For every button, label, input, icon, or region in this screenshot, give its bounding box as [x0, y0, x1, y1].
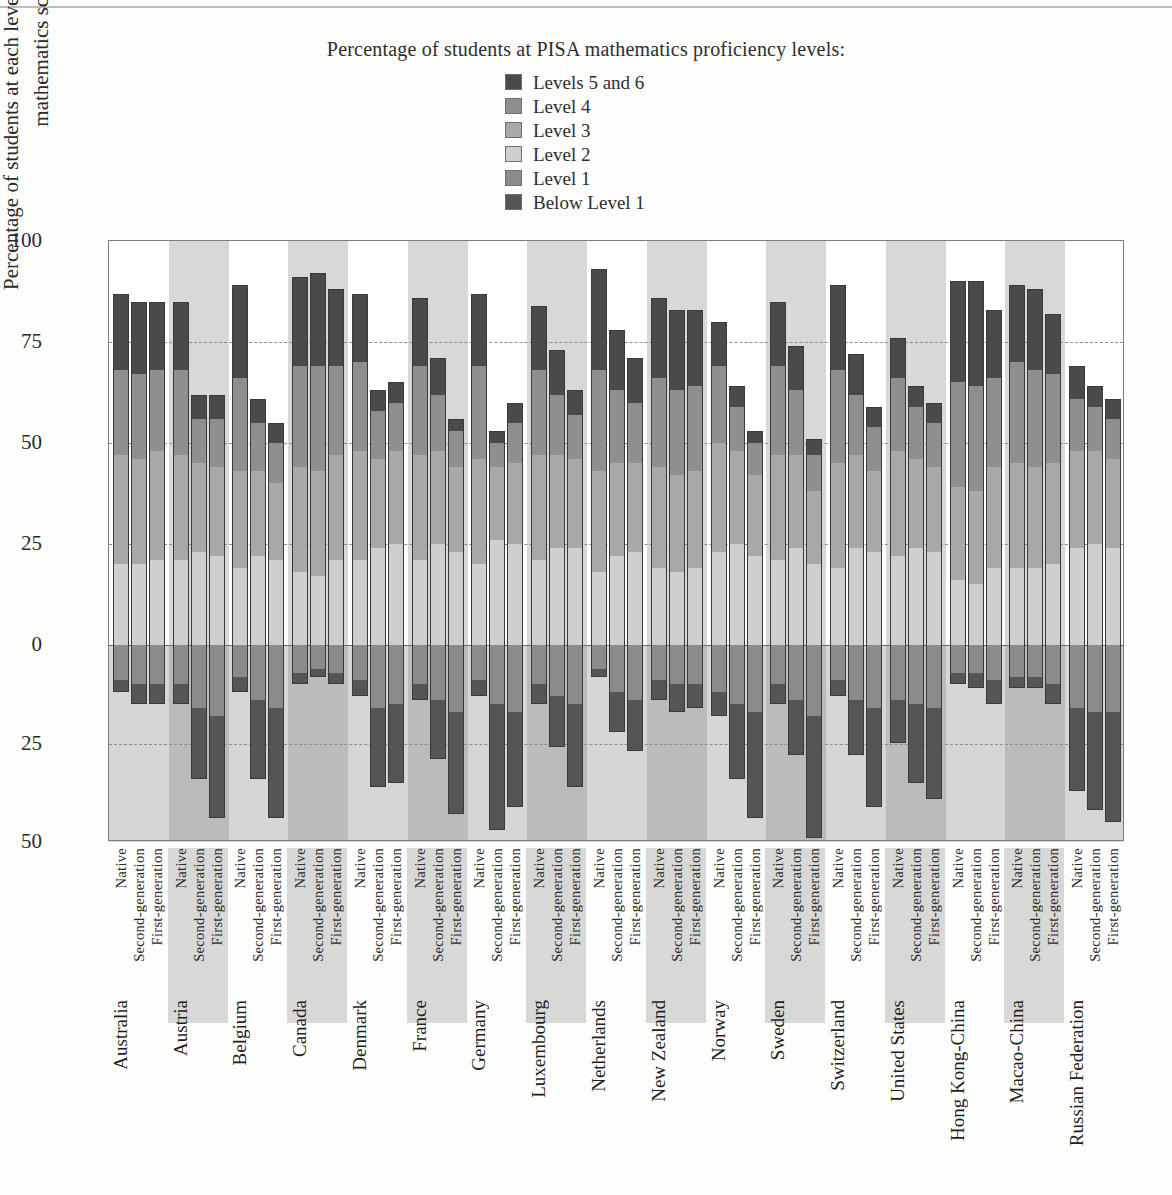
- bar-segment: [1087, 712, 1103, 811]
- stacked-bar: [1087, 241, 1103, 842]
- bar-segment: [328, 673, 344, 685]
- bar-segment: [1069, 548, 1085, 645]
- bar-segment: [1087, 451, 1103, 544]
- bar-segment: [770, 302, 786, 367]
- bar-segment: [549, 645, 565, 696]
- bar-segment: [310, 645, 326, 669]
- y-axis-label: Percentage of students at each level of …: [0, 0, 57, 330]
- generation-label: Second-generation: [131, 848, 148, 962]
- bar-segment: [352, 451, 368, 560]
- bar-segment: [370, 390, 386, 410]
- stacked-bar: [806, 241, 822, 842]
- bar-segment: [173, 560, 189, 645]
- bar-segment: [591, 370, 607, 471]
- country-group: [766, 241, 826, 840]
- stacked-bar: [370, 241, 386, 842]
- bar-segment: [627, 645, 643, 700]
- bar-segment: [890, 451, 906, 556]
- stacked-bar: [113, 241, 129, 842]
- legend-item: Below Level 1: [505, 190, 645, 214]
- bar-segment: [591, 669, 607, 677]
- stacked-bar: [669, 241, 685, 842]
- bar-segment: [687, 568, 703, 645]
- bar-segment: [908, 704, 924, 783]
- bar-segment: [1045, 314, 1061, 375]
- bar-segment: [131, 302, 147, 375]
- legend-item-label: Level 2: [533, 145, 591, 164]
- stacked-bar: [1105, 241, 1121, 842]
- bar-segment: [507, 645, 523, 712]
- y-tick-label: 25: [0, 531, 42, 556]
- bar-segment: [310, 669, 326, 677]
- bar-segment: [986, 645, 1002, 680]
- stacked-bar: [352, 241, 368, 842]
- bar-segment: [1105, 399, 1121, 419]
- bar-segment: [328, 366, 344, 455]
- generation-label: Native: [1069, 848, 1086, 888]
- stacked-bar: [866, 241, 882, 842]
- bar-segment: [1105, 419, 1121, 459]
- bar-segment: [412, 560, 428, 645]
- legend-swatch-icon: [505, 74, 522, 90]
- bar-segment: [609, 390, 625, 463]
- bar-segment: [609, 556, 625, 645]
- bar-segment: [412, 366, 428, 455]
- stacked-bar: [651, 241, 667, 842]
- stacked-bar: [131, 241, 147, 842]
- bar-segment: [173, 370, 189, 455]
- bar-segment: [191, 708, 207, 779]
- bar-segment: [848, 354, 864, 394]
- bar-segment: [830, 285, 846, 370]
- bar-segment: [1045, 684, 1061, 704]
- legend-item: Level 4: [505, 94, 645, 118]
- page-top-rule: [0, 6, 1172, 8]
- bar-segment: [1045, 463, 1061, 564]
- country-group: [707, 241, 767, 840]
- stacked-bar: [310, 241, 326, 842]
- bar-segment: [489, 540, 505, 645]
- bar-segment: [1009, 568, 1025, 645]
- bar-segment: [747, 475, 763, 556]
- generation-label: Native: [232, 848, 249, 888]
- bar-segment: [729, 704, 745, 779]
- generation-label: Native: [173, 848, 190, 888]
- bar-segment: [430, 451, 446, 544]
- bar-segment: [232, 471, 248, 568]
- bar-segment: [1105, 548, 1121, 645]
- bar-segment: [209, 467, 225, 556]
- country-label: Russian Federation: [1066, 1000, 1088, 1146]
- bar-segment: [890, 338, 906, 378]
- bar-segment: [747, 443, 763, 475]
- generation-label: Second-generation: [489, 848, 506, 962]
- bar-segment: [232, 378, 248, 471]
- bar-segment: [370, 708, 386, 787]
- bar-segment: [173, 302, 189, 371]
- bar-segment: [788, 645, 804, 700]
- bar-segment: [191, 419, 207, 463]
- bar-segment: [908, 407, 924, 460]
- bar-segment: [352, 294, 368, 363]
- bar-segment: [149, 684, 165, 704]
- bar-segment: [729, 407, 745, 451]
- bar-segment: [268, 708, 284, 818]
- bar-segment: [1069, 451, 1085, 548]
- bar-segment: [986, 568, 1002, 645]
- bar-segment: [770, 455, 786, 560]
- bar-segment: [388, 451, 404, 544]
- bar-segment: [412, 684, 428, 700]
- country-group: [1005, 241, 1065, 840]
- generation-label: Native: [830, 848, 847, 888]
- bar-segment: [268, 560, 284, 645]
- bar-segment: [250, 645, 266, 700]
- bar-segment: [950, 487, 966, 580]
- country-label: New Zealand: [648, 1000, 670, 1102]
- stacked-bar: [489, 241, 505, 842]
- bar-segment: [531, 560, 547, 645]
- generation-label: Second-generation: [729, 848, 746, 962]
- bar-segment: [866, 552, 882, 645]
- chart-plot-area: [108, 240, 1124, 841]
- bar-segment: [968, 281, 984, 386]
- bar-segment: [489, 431, 505, 443]
- country-group: [647, 241, 707, 840]
- bar-segment: [430, 395, 446, 452]
